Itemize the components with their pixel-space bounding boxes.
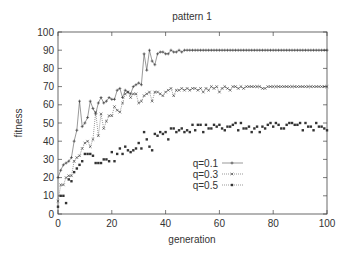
- x-tick-label: 20: [106, 218, 118, 229]
- legend-label: q=0.3: [193, 169, 219, 180]
- y-tick-label: 70: [43, 81, 55, 92]
- y-axis-label: fitness: [13, 109, 24, 138]
- x-tick-label: 0: [55, 218, 61, 229]
- x-axis-label: generation: [168, 234, 215, 245]
- y-tick-label: 60: [43, 99, 55, 110]
- y-tick-label: 80: [43, 63, 55, 74]
- x-tick-label: 80: [268, 218, 280, 229]
- legend-label: q=0.1: [193, 158, 219, 169]
- y-axis: 0102030405060708090100: [37, 27, 327, 220]
- y-tick-label: 90: [43, 45, 55, 56]
- y-tick-label: 30: [43, 154, 55, 165]
- chart-title: pattern 1: [172, 11, 212, 22]
- y-tick-label: 50: [43, 118, 55, 129]
- x-tick-label: 40: [160, 218, 172, 229]
- y-tick-label: 100: [37, 27, 54, 38]
- legend-label: q=0.5: [193, 180, 219, 191]
- line-chart: pattern 1 0102030405060708090100 0204060…: [0, 0, 351, 257]
- legend: q=0.1q=0.3q=0.5: [193, 158, 243, 191]
- y-tick-label: 0: [48, 209, 54, 220]
- y-tick-label: 20: [43, 172, 55, 183]
- y-tick-label: 40: [43, 136, 55, 147]
- x-tick-label: 100: [319, 218, 336, 229]
- x-tick-label: 60: [214, 218, 226, 229]
- y-tick-label: 10: [43, 190, 55, 201]
